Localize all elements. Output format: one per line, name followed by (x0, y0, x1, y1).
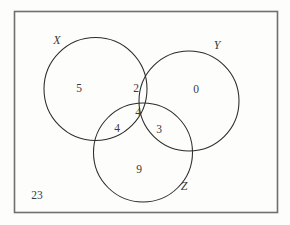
count-y-and-z: 3 (156, 123, 162, 135)
count-x-and-y: 2 (133, 82, 139, 94)
count-y-only: 0 (193, 83, 199, 95)
set-z-label: Z (181, 179, 188, 193)
count-x-and-z: 4 (114, 122, 120, 134)
venn-diagram-figure: X Y Z 5 0 9 2 4 3 4 23 (0, 0, 290, 225)
count-x-only: 5 (76, 82, 82, 94)
count-x-and-y-and-z: 4 (135, 106, 141, 118)
venn-diagram-canvas: X Y Z 5 0 9 2 4 3 4 23 (0, 0, 290, 225)
count-z-only: 9 (136, 163, 142, 175)
set-x-label: X (52, 33, 61, 47)
count-outside: 23 (31, 189, 43, 201)
